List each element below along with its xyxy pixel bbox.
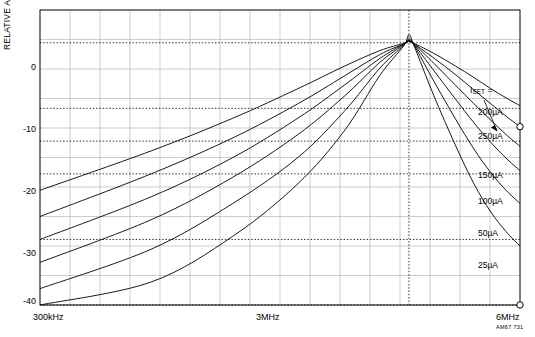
chart-container: RELATIVE AMPLITUDE (dB) 0 -10 -20 -30 -4… [0, 0, 535, 337]
plot-area [0, 0, 535, 337]
minor-gridlines [40, 10, 520, 305]
